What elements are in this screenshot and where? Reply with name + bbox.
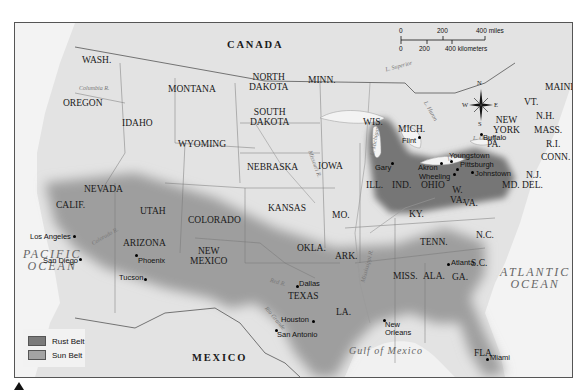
city-flint: Flint [402,137,416,145]
city-dot-youngstown [450,160,453,163]
label-nc: N.C. [476,231,494,241]
city-buffalo: Buffalo [483,134,506,142]
label-idaho: IDAHO [122,119,153,129]
label-ind: IND. [392,181,411,191]
label-nh: N.H. [536,112,554,122]
map-legend: Rust Belt Sun Belt [23,329,85,367]
label-nj: N.J. [526,171,541,181]
legend-item-rust-belt: Rust Belt [28,336,84,346]
label-del: DEL. [522,181,543,191]
map-frame: CANADA MEXICO PACIFIC OCEAN ATLANTIC OCE… [14,22,573,378]
city-houston: Houston [281,316,309,324]
label-gulf-of-mexico: Gulf of Mexico [349,346,423,356]
label-ala: ALA. [423,272,445,282]
label-ga: GA. [452,273,468,283]
label-texas: TEXAS [288,292,319,302]
label-conn: CONN. [541,153,570,163]
compass-rose-icon: N S W E [464,83,498,127]
city-akron: Akron [418,164,438,172]
city-miami: Miami [490,354,510,362]
label-ri: R.I. [546,140,560,150]
city-dot-flint [418,136,421,139]
legend-swatch-rust-belt [28,336,46,346]
city-dot-akron [440,162,443,165]
city-pittsburgh: Pittsburgh [460,161,494,169]
label-ill: ILL. [366,181,383,191]
label-calif: CALIF. [56,201,85,211]
label-new-mexico: NEW MEXICO [190,247,227,266]
city-phoenix: Phoenix [138,257,165,265]
label-iowa: IOWA [318,162,343,172]
city-los-angeles: Los Angeles [30,233,71,241]
city-dot-san-diego [79,258,82,261]
label-nebraska: NEBRASKA [247,163,298,173]
label-miss: MISS. [393,272,418,282]
city-dot-wheeling [453,173,456,176]
label-mich: MICH. [398,125,425,135]
label-north-dakota: NORTH DAKOTA [249,73,288,92]
label-arizona: ARIZONA [123,239,166,249]
city-johnstown: Johnstown [475,170,511,178]
city-dot-miami [486,358,489,361]
city-san-diego: San Diego [43,257,78,265]
scale-line [399,36,509,44]
label-utah: UTAH [140,207,166,217]
label-oregon: OREGON [63,99,103,109]
city-dot-atlanta [447,263,450,266]
city-gary: Gary [375,164,391,172]
legend-swatch-sun-belt [28,350,46,360]
label-ky: KY. [409,210,424,220]
label-wva: W. VA. [450,186,465,205]
label-canada: CANADA [227,40,283,51]
city-dot-tucson [144,278,147,281]
legend-item-sun-belt: Sun Belt [28,350,82,360]
label-south-dakota: SOUTH DAKOTA [250,108,289,127]
city-tucson: Tucson [119,274,143,282]
city-dot-gary [391,162,394,165]
label-ark: ARK. [335,252,357,262]
label-colorado: COLORADO [188,216,241,226]
label-montana: MONTANA [168,85,216,95]
label-vt: VT. [524,98,538,108]
label-wyoming: WYOMING [178,140,226,150]
label-mass: MASS. [534,126,562,136]
label-atlantic-ocean: ATLANTIC OCEAN [500,266,570,290]
city-youngstown: Youngstown [449,152,490,160]
label-mexico: MEXICO [192,353,247,364]
label-kansas: KANSAS [268,204,306,214]
label-la: LA. [336,308,351,318]
city-wheeling: Wheeling [419,173,450,181]
city-dot-houston [312,320,315,323]
label-md: MD. [502,181,520,191]
caption-arrow-icon [14,382,24,390]
scale-bar: 0 200 400 miles 0 200 400 kilometers [399,27,509,57]
label-nevada: NEVADA [84,185,123,195]
city-atlanta: Atlanta [451,259,474,267]
label-minn: MINN. [308,76,336,86]
label-va: VA. [463,199,478,209]
city-dot-johnstown [471,171,474,174]
label-okla: OKLA. [297,244,326,254]
city-dot-pittsburgh [456,168,459,171]
label-tenn: TENN. [420,238,448,248]
label-mo: MO. [332,211,350,221]
city-new-orleans: New Orleans [385,321,415,336]
city-dallas: Dallas [299,280,320,288]
label-wash: WASH. [82,56,111,66]
city-san-antonio: San Antonio [277,331,317,339]
label-maine: MAINE [545,83,573,93]
city-dot-los-angeles [73,235,76,238]
label-columbia-river: Columbia R. [79,85,109,91]
label-ohio: OHIO [421,181,445,191]
